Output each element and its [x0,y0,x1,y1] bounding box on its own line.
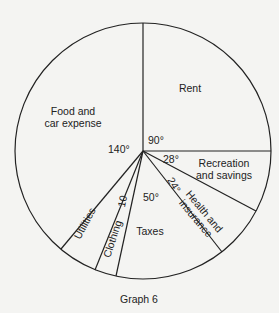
divider-taxes-clothing [116,151,143,276]
label-rent: Rent [179,82,201,94]
label-taxes: Taxes [136,225,163,237]
angle-rent: 90° [148,134,164,146]
angle-taxes: 50° [143,191,159,203]
label-recreation-1: Recreation [199,157,250,169]
label-utilities: Utilities [71,205,97,241]
chart-caption: Graph 6 [120,293,158,305]
angle-food: 140° [108,143,130,155]
angle-clothing: 10 [115,194,129,208]
pie-chart: Rent Recreation and savings Health and i… [0,0,279,313]
label-recreation-2: and savings [196,169,252,181]
angle-recreation: 28° [163,153,179,165]
label-food-1: Food and [51,105,96,117]
angle-health: 24° [165,175,183,195]
label-food-2: car expense [44,117,101,129]
